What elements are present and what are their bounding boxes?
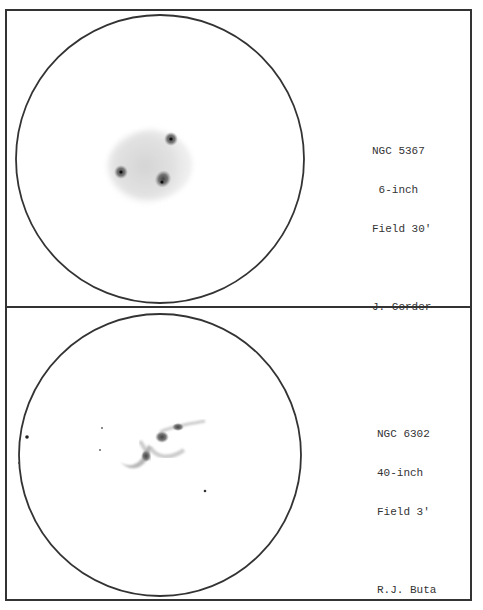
caption-top: NGC 5367 6-inch Field 30' J. Corder: [372, 119, 431, 327]
planetary-nebula: [120, 421, 205, 468]
reflection-nebula: [104, 125, 192, 206]
object-name: NGC 6302: [377, 428, 436, 441]
aperture: 6-inch: [372, 184, 431, 197]
field-size: Field 30': [372, 223, 431, 236]
eyepiece-field-bottom: [18, 314, 301, 596]
caption-bottom: NGC 6302 40-inch Field 3' R.J. Buta: [377, 402, 436, 610]
field-size: Field 3': [377, 506, 436, 519]
aperture: 40-inch: [377, 467, 436, 480]
object-name: NGC 5367: [372, 145, 431, 158]
observer: J. Corder: [372, 301, 431, 314]
observer: R.J. Buta: [377, 584, 436, 597]
eyepiece-field-top: [16, 15, 304, 303]
field-stars: [18, 427, 206, 492]
